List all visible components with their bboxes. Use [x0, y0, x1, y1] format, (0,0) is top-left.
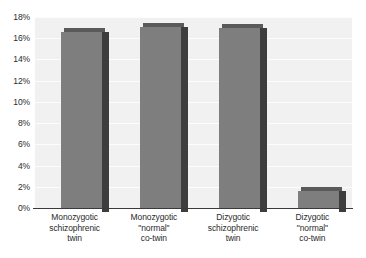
y-axis: 0%2%4%6%8%10%12%14%16%18% [0, 0, 33, 258]
x-axis-category-line: "normal" [114, 223, 193, 234]
x-axis-category-label: Monozygotic"normal"co-twin [114, 212, 193, 244]
bar [298, 191, 339, 208]
x-axis-category-line: Dizygotic [194, 212, 273, 223]
bar-side-face [102, 32, 109, 212]
x-axis-category-line: Dizygotic [273, 212, 352, 223]
y-axis-tick-label: 0% [0, 204, 30, 213]
bar [61, 32, 102, 208]
x-axis-category-line: Monozygotic [114, 212, 193, 223]
bar-chart: 0%2%4%6%8%10%12%14%16%18% Monozygoticsch… [0, 0, 366, 258]
y-axis-tick-label: 6% [0, 140, 30, 149]
y-axis-tick-label: 16% [0, 34, 30, 43]
y-axis-tick-label: 10% [0, 97, 30, 106]
x-axis-category-line: "normal" [273, 223, 352, 234]
gridline [35, 17, 352, 18]
y-axis-tick-label: 14% [0, 55, 30, 64]
x-axis-category-line: twin [194, 233, 273, 244]
bar [140, 27, 181, 208]
axis-baseline [33, 208, 353, 209]
y-axis-tick-label: 4% [0, 161, 30, 170]
bar [219, 28, 260, 208]
y-axis-tick-label: 8% [0, 119, 30, 128]
bar-face [140, 27, 181, 208]
bar-face [219, 28, 260, 208]
x-axis-category-line: co-twin [114, 233, 193, 244]
x-axis-category-label: Dizygotic"normal"co-twin [273, 212, 352, 244]
x-axis-category-line: schizophrenic [35, 223, 114, 234]
y-axis-tick-label: 12% [0, 76, 30, 85]
y-axis-tick-label: 2% [0, 182, 30, 191]
x-axis-category-label: Monozygoticschizophrenictwin [35, 212, 114, 244]
bar-face [298, 191, 339, 208]
x-axis: MonozygoticschizophrenictwinMonozygotic"… [35, 212, 352, 258]
bar-side-face [181, 27, 188, 212]
x-axis-category-line: twin [35, 233, 114, 244]
bar-side-face [260, 28, 267, 212]
plot-area [35, 17, 352, 208]
x-axis-category-line: Monozygotic [35, 212, 114, 223]
x-axis-category-line: schizophrenic [194, 223, 273, 234]
y-axis-tick-label: 18% [0, 13, 30, 22]
x-axis-category-line: co-twin [273, 233, 352, 244]
bar-face [61, 32, 102, 208]
x-axis-category-label: Dizygoticschizophrenictwin [194, 212, 273, 244]
